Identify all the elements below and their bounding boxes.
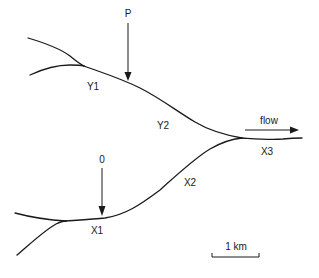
upper-channel-branch-south [30, 65, 84, 75]
main-channel [242, 138, 302, 139]
lower-channel-X [66, 138, 242, 221]
river-channels [0, 0, 319, 278]
label-X3: X3 [261, 147, 273, 157]
label-P: P [125, 9, 132, 19]
lower-channel-branch-north [15, 213, 66, 221]
label-X1: X1 [91, 226, 103, 236]
flow-arrow-head-icon [290, 127, 299, 134]
label-origin: 0 [99, 155, 105, 165]
scale-bar-label: 1 km [225, 242, 247, 252]
origin-arrow-head-icon [99, 206, 106, 216]
label-Y1: Y1 [87, 82, 99, 92]
label-flow: flow [260, 116, 278, 126]
lower-channel-branch-south [17, 221, 66, 255]
label-X2: X2 [184, 178, 196, 188]
P-arrow-head-icon [125, 72, 132, 81]
river-diagram: P 0 Y1 Y2 X1 X2 X3 flow 1 km [0, 0, 319, 278]
label-Y2: Y2 [157, 121, 169, 131]
upper-channel-branch-north [28, 38, 84, 66]
scale-bar [212, 253, 259, 257]
